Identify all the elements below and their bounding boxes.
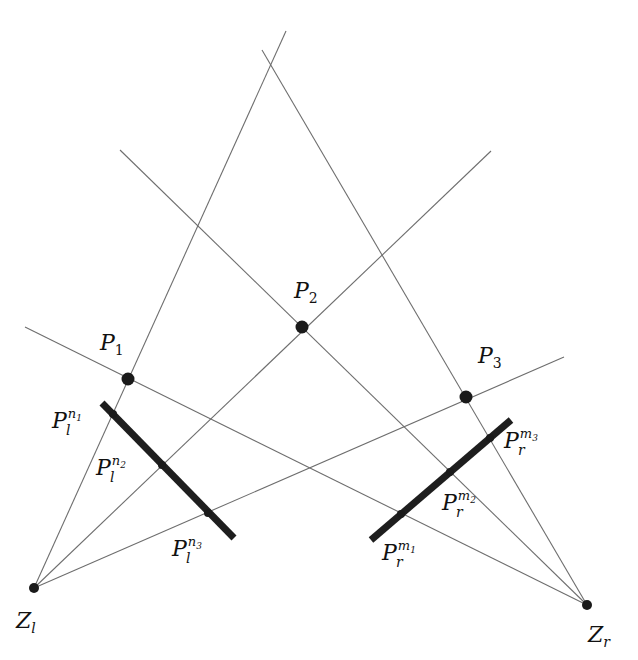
label-Pr_m1-sub: r — [396, 554, 404, 570]
scene-point-P3 — [460, 391, 473, 404]
label-P1: P1 — [99, 330, 124, 358]
projection-point-Pl_n3 — [204, 509, 212, 517]
camera-center-Zr — [582, 600, 592, 610]
label-P3: P3 — [477, 343, 502, 371]
projection-point-Pr_m1 — [397, 510, 405, 518]
label-Zr: Zr — [587, 622, 611, 650]
scene-point-P2 — [296, 321, 309, 334]
label-Pr_m3-sub: r — [518, 442, 526, 458]
scene-point-P1 — [122, 373, 135, 386]
camera-center-Zl — [29, 583, 39, 593]
ray-Zl-0 — [34, 31, 286, 588]
stereo-triangulation-diagram: P1P2P3ZlZrPn1lPn2lPn3lPm1rPm2rPm3r — [0, 0, 638, 660]
image-plane-left — [102, 403, 234, 538]
label-P2: P2 — [293, 278, 318, 306]
projection-point-Pl_n2 — [158, 461, 166, 469]
label-Pl_n3-sub: l — [186, 550, 190, 566]
ray-Zr-5 — [262, 50, 587, 605]
camera-centers — [29, 583, 592, 610]
scene-points — [122, 321, 473, 404]
label-Pl_n1-sub: l — [66, 422, 70, 438]
projection-point-Pr_m2 — [446, 468, 454, 476]
labels: P1P2P3ZlZrPn1lPn2lPn3lPm1rPm2rPm3r — [15, 278, 611, 650]
label-Pr_m2-sub: r — [456, 504, 464, 520]
projection-point-Pr_m3 — [486, 434, 494, 442]
ray-Zl-1 — [34, 151, 491, 588]
projection-rays — [25, 31, 587, 605]
label-Zl: Zl — [15, 608, 36, 636]
label-Pl_n2-sub: l — [110, 469, 114, 485]
projection-point-Pl_n1 — [109, 410, 117, 418]
